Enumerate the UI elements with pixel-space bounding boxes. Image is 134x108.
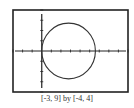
graph-window xyxy=(0,0,134,108)
window-caption: [-3, 9] by [-4, 4] xyxy=(0,94,134,103)
